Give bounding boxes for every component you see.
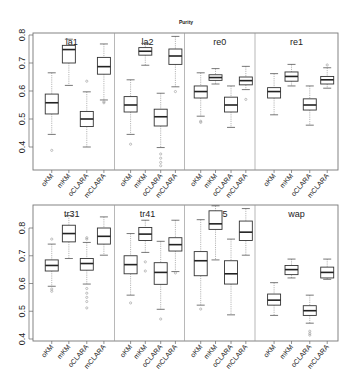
box-oCLARA <box>80 237 93 309</box>
panel-tr31: tr31oKMmKMoCLARAmCLARA <box>40 209 111 370</box>
y-tick-label: 0.4 <box>17 333 27 346</box>
box-oKM <box>268 74 281 115</box>
box-mCLARA <box>239 209 252 256</box>
x-tick-label: oKM <box>262 172 277 188</box>
panel-row-1: 0.40.50.60.70.8la1oKMmKMoCLARAmCLARAla2o… <box>17 29 338 199</box>
x-tick-label: oKM <box>40 172 55 188</box>
plot-frame <box>33 33 338 170</box>
box-mCLARA <box>169 36 182 92</box>
y-tick-label: 0.7 <box>17 249 27 262</box>
box-mKM <box>209 206 222 260</box>
panel-rows: 0.40.50.60.70.8la1oKMmKMoCLARAmCLARAla2o… <box>17 29 338 370</box>
panel-tr45: tr45oKMmKMoCLARAmCLARA <box>189 206 252 370</box>
box-mKM <box>285 64 298 86</box>
panel-label: la2 <box>141 37 153 47</box>
box-mCLARA <box>321 259 334 279</box>
x-tick-label: oKM <box>119 343 134 359</box>
outlier-point <box>326 64 328 66</box>
outlier-point <box>86 307 88 309</box>
y-tick-label: 0.8 <box>17 29 27 42</box>
outlier-point <box>86 287 88 289</box>
y-tick-label: 0.8 <box>17 222 27 235</box>
box-oCLARA <box>154 93 167 167</box>
box-oCLARA <box>80 80 93 147</box>
panel-la1: la1oKMmKMoCLARAmCLARA <box>40 37 111 199</box>
box-mKM <box>139 220 152 272</box>
box-oKM <box>124 234 137 304</box>
y-tick-label: 0.6 <box>17 277 27 290</box>
x-tick-label: mKM <box>278 172 294 189</box>
x-tick-label: oKM <box>262 343 277 359</box>
box-oCLARA <box>225 86 238 127</box>
outlier-point <box>174 90 176 92</box>
outlier-point <box>51 288 53 290</box>
box-oKM <box>124 80 137 145</box>
box-mCLARA <box>321 64 334 88</box>
box-mKM <box>62 39 75 85</box>
box-oCLARA <box>154 241 167 320</box>
panel-label: tr31 <box>64 209 80 219</box>
outlier-point <box>86 80 88 82</box>
box-oCLARA <box>303 86 316 125</box>
outlier-point <box>51 290 53 292</box>
x-tick-label: oKM <box>40 343 55 359</box>
y-tick-label: 0.5 <box>17 305 27 318</box>
box-oKM <box>194 73 207 124</box>
outlier-point <box>86 292 88 294</box>
outlier-point <box>144 270 146 272</box>
figure-title: Purity <box>179 19 193 25</box>
panel-label: tr41 <box>140 209 156 219</box>
y-tick-label: 0.6 <box>17 85 27 98</box>
outlier-point <box>144 261 146 263</box>
outlier-point <box>86 296 88 298</box>
outlier-point <box>160 157 162 159</box>
purity-boxplot-svg: Purity 0.40.50.60.70.8la1oKMmKMoCLARAmCL… <box>0 0 357 385</box>
box-mKM <box>209 69 222 84</box>
panel-re0: re0oKMmKMoCLARAmCLARA <box>189 37 252 199</box>
panel-la2: la2oKMmKMoCLARAmCLARA <box>119 36 182 199</box>
box-mCLARA <box>97 217 110 255</box>
panel-label: re1 <box>290 37 303 47</box>
outlier-point <box>51 149 53 151</box>
panel-wap: wapoKMmKMoCLARAmCLARA <box>262 209 333 370</box>
panel-label: wap <box>287 209 305 219</box>
panel-row-2: 0.40.50.60.70.8tr31oKMmKMoCLARAmCLARAtr4… <box>17 205 338 370</box>
box-oKM <box>45 73 58 152</box>
box-mKM <box>285 259 298 278</box>
outlier-point <box>160 165 162 167</box>
outlier-point <box>130 143 132 145</box>
outlier-point <box>174 272 176 274</box>
outlier-point <box>160 153 162 155</box>
outlier-point <box>160 161 162 163</box>
x-tick-label: mKM <box>278 343 294 360</box>
box-mCLARA <box>169 220 182 274</box>
outlier-point <box>245 98 247 100</box>
y-tick-label: 0.4 <box>17 141 27 154</box>
panel-tr41: tr41oKMmKMoCLARAmCLARA <box>119 209 182 370</box>
x-tick-label: oKM <box>189 343 204 359</box>
box-mCLARA <box>97 44 110 104</box>
box-mKM <box>62 216 75 259</box>
box-oCLARA <box>303 295 316 336</box>
outlier-point <box>200 308 202 310</box>
boxplot-figure: Purity 0.40.50.60.70.8la1oKMmKMoCLARAmCL… <box>0 0 357 385</box>
x-tick-label: oKM <box>119 172 134 188</box>
box-oKM <box>268 283 281 316</box>
box-oCLARA <box>225 239 238 315</box>
outlier-point <box>130 302 132 304</box>
box-oKM <box>194 220 207 310</box>
box-mCLARA <box>239 66 252 100</box>
panel-label: re0 <box>213 37 226 47</box>
x-tick-label: oKM <box>189 172 204 188</box>
outlier-point <box>86 300 88 302</box>
outlier-point <box>309 330 311 332</box>
y-tick-label: 0.7 <box>17 57 27 70</box>
y-tick-label: 0.5 <box>17 113 27 126</box>
outlier-point <box>51 238 53 240</box>
outlier-point <box>160 318 162 320</box>
x-tick-label: mKM <box>56 343 72 360</box>
x-tick-label: mKM <box>56 172 72 189</box>
box-oKM <box>45 238 58 292</box>
panel-re1: re1oKMmKMoCLARAmCLARA <box>262 37 333 199</box>
